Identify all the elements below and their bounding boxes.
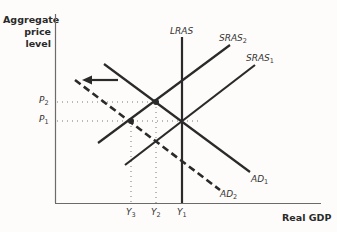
ad2-label: AD2 <box>220 189 237 201</box>
y1-tick-label: Y1 <box>177 207 187 219</box>
y2-tick-label: Y2 <box>151 207 161 219</box>
sras2-label: SRAS2 <box>219 33 247 45</box>
equilibrium-point-e3 <box>128 118 134 124</box>
shift-left-arrow-icon <box>82 76 118 85</box>
p2-tick-label: P2 <box>39 95 49 107</box>
lras-label: LRAS <box>170 26 193 36</box>
equilibrium-point-e2 <box>153 99 159 105</box>
ad-as-chart <box>0 0 337 232</box>
sras2-curve <box>98 45 230 143</box>
sras1-label: SRAS1 <box>246 53 274 65</box>
sras1-curve <box>125 65 255 165</box>
ad1-label: AD1 <box>251 174 268 186</box>
y3-tick-label: Y3 <box>126 207 136 219</box>
guide-lines <box>57 102 200 203</box>
p1-tick-label: P1 <box>39 114 49 126</box>
